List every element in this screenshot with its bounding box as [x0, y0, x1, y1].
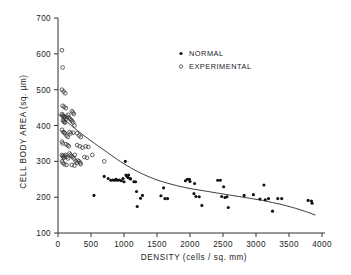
- data-point: [267, 197, 270, 200]
- data-point: [124, 160, 127, 163]
- x-axis-tick-labels: 05001000150020002500300035004000: [56, 240, 332, 249]
- chart-background: [0, 0, 351, 275]
- data-point: [134, 180, 137, 183]
- data-point: [159, 194, 162, 197]
- y-tick-label: 100: [36, 229, 51, 238]
- x-tick-label: 1000: [114, 240, 134, 249]
- y-axis-title: CELL BODY AREA (sq. µm): [19, 74, 28, 188]
- x-tick-label: 2000: [180, 240, 200, 249]
- y-tick-label: 500: [36, 86, 51, 95]
- chart-figure: 100200300400500600700 050010001500200025…: [0, 0, 351, 275]
- data-point: [192, 192, 195, 195]
- data-point: [216, 179, 219, 182]
- scatter-plot-svg: 100200300400500600700 050010001500200025…: [0, 0, 351, 275]
- data-point: [136, 205, 139, 208]
- y-tick-label: 300: [36, 157, 51, 166]
- data-point: [258, 197, 261, 200]
- data-point: [280, 197, 283, 200]
- data-point: [127, 173, 130, 176]
- data-point: [220, 195, 223, 198]
- data-point: [107, 177, 110, 180]
- legend-entry-experimental: EXPERIMENTAL: [179, 62, 251, 71]
- data-point: [129, 177, 132, 180]
- data-point: [271, 210, 274, 213]
- y-tick-label: 400: [36, 122, 51, 131]
- data-point: [163, 197, 166, 200]
- data-point: [276, 197, 279, 200]
- data-point: [243, 194, 246, 197]
- data-point: [121, 177, 124, 180]
- data-point: [222, 185, 225, 188]
- legend-label-experimental: EXPERIMENTAL: [189, 62, 252, 71]
- legend-marker-normal-icon: [179, 52, 182, 55]
- x-tick-label: 2500: [213, 240, 233, 249]
- x-axis-title: DENSITY (cells / sq. mm): [141, 253, 247, 262]
- data-point: [262, 183, 265, 186]
- x-tick-label: 3000: [246, 240, 266, 249]
- data-point: [193, 182, 196, 185]
- data-point: [200, 204, 203, 207]
- data-point: [139, 197, 142, 200]
- data-point: [311, 202, 314, 205]
- y-tick-label: 600: [36, 50, 51, 59]
- data-point: [227, 206, 230, 209]
- data-point: [103, 175, 106, 178]
- data-point: [92, 194, 95, 197]
- y-tick-label: 700: [36, 14, 51, 23]
- x-tick-label: 4000: [312, 240, 332, 249]
- data-point: [162, 186, 165, 189]
- data-point: [307, 199, 310, 202]
- data-point: [225, 195, 228, 198]
- data-point: [135, 190, 138, 193]
- data-point: [198, 195, 201, 198]
- x-tick-label: 500: [84, 240, 99, 249]
- data-point: [141, 194, 144, 197]
- data-point: [166, 197, 169, 200]
- data-point: [194, 195, 197, 198]
- legend-label-normal: NORMAL: [189, 49, 224, 58]
- x-tick-label: 0: [56, 240, 61, 249]
- x-tick-label: 3500: [279, 240, 299, 249]
- data-point: [122, 180, 125, 183]
- data-point: [219, 179, 222, 182]
- y-tick-label: 200: [36, 193, 51, 202]
- data-point: [252, 193, 255, 196]
- x-tick-label: 1500: [147, 240, 167, 249]
- data-point: [188, 180, 191, 183]
- data-point: [264, 198, 267, 201]
